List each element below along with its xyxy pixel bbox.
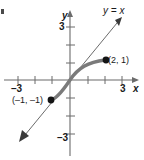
point-label-neg1-neg1: (–1, –1) <box>12 96 43 105</box>
data-point-neg1-neg1 <box>48 97 55 104</box>
y-axis-label: y <box>62 11 68 21</box>
x-axis-label: x <box>133 84 139 94</box>
line-equation-label: y = x <box>103 6 124 16</box>
x-tick-label-neg3: –3 <box>11 84 22 94</box>
y-tick-label-neg3: –3 <box>57 133 68 143</box>
point-label-2-1: (2, 1) <box>108 56 129 65</box>
plot-canvas <box>0 0 144 160</box>
x-tick-label-3: 3 <box>120 84 126 94</box>
graph-figure: y 3 –3 –3 3 x (–1, –1) (2, 1) y = x <box>0 0 144 160</box>
scan-artifact-speck <box>1 9 4 14</box>
y-tick-label-3: 3 <box>59 22 65 32</box>
